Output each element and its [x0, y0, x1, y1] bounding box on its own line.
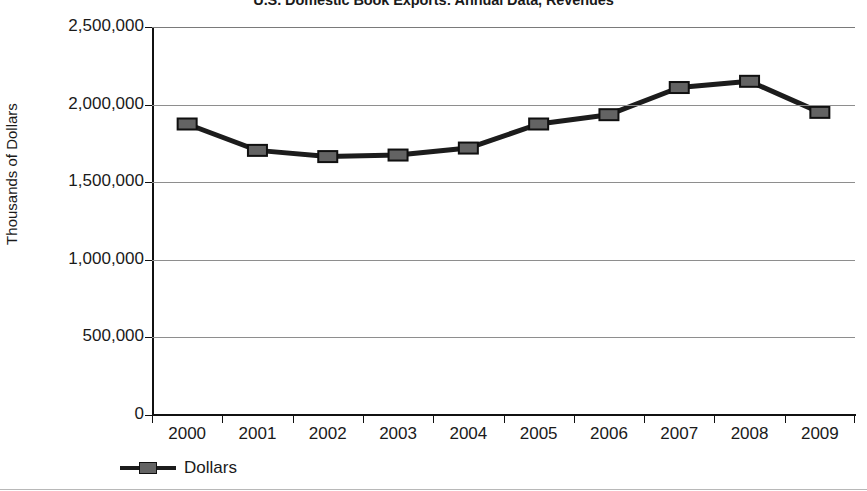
y-axis-tick-label: 2,500,000	[24, 16, 144, 36]
x-axis-tick-mark	[785, 415, 786, 423]
series-line-dollars	[152, 27, 855, 415]
gridline	[152, 260, 855, 261]
data-point-marker	[529, 119, 548, 130]
x-axis-tick-mark	[433, 415, 434, 423]
data-point-marker	[178, 119, 197, 130]
x-axis-tick-labels: 2000200120022003200420052006200720082009	[152, 424, 855, 450]
y-axis-title: Thousands of Dollars	[3, 84, 21, 264]
y-axis-tick-label: 1,000,000	[24, 249, 144, 269]
gridline	[152, 337, 855, 338]
series-polyline	[187, 81, 820, 156]
y-axis-tick-label: 2,000,000	[24, 94, 144, 114]
data-point-marker	[740, 76, 759, 87]
x-axis-tick-label: 2002	[288, 424, 368, 444]
legend-label-dollars: Dollars	[184, 458, 237, 478]
y-axis-tick-label: 500,000	[24, 326, 144, 346]
data-point-marker	[318, 151, 337, 162]
data-point-marker	[670, 82, 689, 93]
y-axis-tick-mark	[145, 337, 152, 338]
x-axis-tick-label: 2008	[710, 424, 790, 444]
chart-container: U.S. Domestic Book Exports: Annual Data,…	[0, 0, 867, 491]
chart-title: U.S. Domestic Book Exports: Annual Data,…	[0, 0, 867, 8]
y-axis-tick-mark	[145, 182, 152, 183]
page-bottom-rule	[0, 489, 867, 490]
x-axis-tick-mark	[363, 415, 364, 423]
x-axis-tick-mark	[293, 415, 294, 423]
gridline	[152, 27, 855, 28]
legend-swatch-dollars	[120, 461, 176, 475]
y-axis-tick-mark	[145, 260, 152, 261]
y-axis-tick-mark	[145, 105, 152, 106]
data-point-marker	[810, 107, 829, 118]
x-axis-tick-mark	[854, 415, 855, 423]
x-axis-tick-label: 2001	[217, 424, 297, 444]
x-axis-tick-label: 2006	[569, 424, 649, 444]
y-axis-tick-mark	[145, 415, 152, 416]
x-axis-tick-mark	[574, 415, 575, 423]
x-axis-tick-label: 2007	[639, 424, 719, 444]
gridline	[152, 182, 855, 183]
y-axis-tick-mark	[145, 27, 152, 28]
data-point-marker	[599, 109, 618, 120]
plot-area	[152, 27, 855, 415]
x-axis-tick-mark	[504, 415, 505, 423]
x-axis-tick-mark	[152, 415, 153, 423]
x-axis-tick-mark	[644, 415, 645, 423]
x-axis-tick-label: 2005	[499, 424, 579, 444]
y-axis-tick-label: 1,500,000	[24, 171, 144, 191]
y-axis-tick-labels: 0500,0001,000,0001,500,0002,000,0002,500…	[22, 27, 144, 415]
x-axis-tick-mark	[714, 415, 715, 423]
legend-square-marker-icon	[139, 462, 157, 474]
x-axis-tick-label: 2003	[358, 424, 438, 444]
x-axis-tick-label: 2004	[428, 424, 508, 444]
chart-legend: Dollars	[120, 458, 237, 478]
data-point-marker	[459, 143, 478, 154]
data-point-marker	[248, 145, 267, 156]
x-axis-tick-label: 2009	[780, 424, 860, 444]
gridline	[152, 105, 855, 106]
x-axis-tick-label: 2000	[147, 424, 227, 444]
data-point-marker	[389, 150, 408, 161]
x-axis-tick-mark	[222, 415, 223, 423]
y-axis-tick-label: 0	[24, 404, 144, 424]
